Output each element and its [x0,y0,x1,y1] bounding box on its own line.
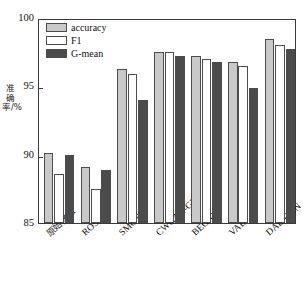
bar-accuracy-group-6 [228,62,238,223]
y-tick-mark [39,88,43,89]
bar-accuracy-group-4 [154,52,164,223]
y-axis-tick-90: 90 [8,149,34,160]
bar-f1-group-2 [91,189,101,223]
bar-g-mean-group-5 [212,62,222,223]
legend-label: accuracy [71,22,107,33]
legend-label: F1 [71,35,82,46]
bar-g-mean-group-2 [101,170,111,223]
bar-accuracy-group-2 [81,167,91,223]
bar-f1-group-4 [165,52,175,223]
bar-accuracy-group-1 [44,153,54,223]
bar-g-mean-group-3 [138,100,148,223]
bar-g-mean-group-1 [65,155,75,223]
y-axis-tick-95: 95 [8,80,34,91]
bar-f1-group-7 [275,45,285,223]
bar-accuracy-group-7 [265,39,275,224]
bar-f1-group-5 [202,59,212,223]
bar-accuracy-group-5 [191,56,201,223]
legend-item-accuracy: accuracy [46,22,116,34]
bar-f1-group-6 [238,66,248,223]
legend-item-f1: F1 [46,35,116,47]
bar-g-mean-group-4 [175,56,185,223]
bar-g-mean-group-6 [249,88,259,223]
chart-legend: accuracyF1G-mean [44,20,118,63]
legend-label: G-mean [71,48,103,59]
bar-chart: 准确率/% 859095100 原始样本ROSSMOTECWGAN-GPBEGA… [0,0,306,286]
y-tick-mark [39,157,43,158]
legend-swatch-accuracy [46,23,67,32]
legend-item-g-mean: G-mean [46,48,116,60]
bar-g-mean-group-7 [286,49,296,223]
bar-f1-group-1 [54,174,64,223]
legend-swatch-f1 [46,36,67,45]
legend-swatch-g-mean [46,49,67,58]
y-axis-tick-100: 100 [8,12,34,23]
bar-accuracy-group-3 [117,69,127,223]
y-axis-tick-85: 85 [8,217,34,228]
bar-f1-group-3 [128,74,138,223]
